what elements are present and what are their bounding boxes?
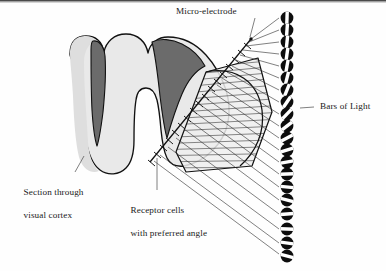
label-section-through-visual-cortex: Section through visual cortex — [14, 175, 84, 233]
bar-of-light — [281, 12, 294, 25]
bar-of-light — [281, 132, 294, 145]
label-section-line1: Section through — [24, 187, 84, 197]
label-receptor-cells: Receptor cells with preferred angle — [121, 193, 207, 251]
top-border-rule — [0, 0, 386, 2]
bar-of-light — [280, 208, 293, 221]
bar-of-light — [281, 23, 294, 36]
bar-of-light — [281, 96, 294, 109]
bar-of-light — [281, 108, 294, 121]
label-micro-electrode: Micro-electrode — [176, 6, 237, 18]
label-receptor-line2: with preferred angle — [131, 228, 207, 238]
label-receptor-line1: Receptor cells — [131, 205, 185, 215]
electrode-tip — [249, 37, 252, 40]
label-section-line2: visual cortex — [24, 210, 73, 220]
label-bars-of-light: Bars of Light — [320, 101, 370, 113]
bar-of-light — [281, 120, 294, 133]
bar-of-light — [281, 223, 294, 236]
bar-of-light — [281, 168, 294, 181]
top-border-rule-soft — [0, 2, 386, 3]
figure-visual-cortex-diagram: Micro-electrode Bars of Light Section th… — [0, 0, 386, 271]
